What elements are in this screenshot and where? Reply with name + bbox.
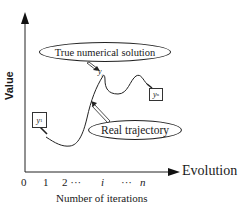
point-yn-sub: n <box>157 92 160 97</box>
x-axis-arrow-icon <box>168 168 180 176</box>
tick-0: 0 <box>21 177 27 188</box>
tick-1: 1 <box>43 177 49 188</box>
real-trajectory-arrow-icon <box>92 104 110 123</box>
true-solution-callout: True numerical solution <box>39 42 171 62</box>
tick-ellipsis: ··· <box>121 177 132 188</box>
x-axis-label: Evolution <box>182 164 237 178</box>
y1-pointer <box>40 127 47 134</box>
true-solution-label: True numerical solution <box>55 47 156 58</box>
point-yn-box: yn <box>149 88 163 101</box>
x-axis-title: Number of iterations <box>56 193 148 204</box>
point-y1-sub: 1 <box>40 118 43 123</box>
real-trajectory-callout: Real trajectory <box>88 120 182 140</box>
point-yi-label: yi <box>98 68 103 78</box>
tick-i: i <box>101 177 104 188</box>
point-yi-sub: i <box>102 73 103 78</box>
y-axis-label: Value <box>3 71 15 100</box>
point-y1-box: y1 <box>32 112 47 128</box>
tick-n: n <box>140 177 146 188</box>
real-trajectory-label: Real trajectory <box>101 124 169 136</box>
tick-2: 2 ··· <box>62 177 81 188</box>
y-axis-arrow-icon <box>21 12 29 24</box>
